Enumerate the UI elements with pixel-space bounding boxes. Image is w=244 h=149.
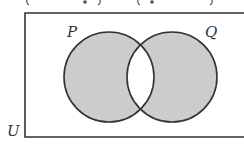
venn-diagram: P Q U	[0, 0, 244, 149]
cropped-caption	[27, 0, 213, 5]
set-q-label: Q	[205, 23, 217, 41]
set-p-label: P	[66, 23, 78, 41]
universal-set-label: U	[7, 122, 21, 140]
